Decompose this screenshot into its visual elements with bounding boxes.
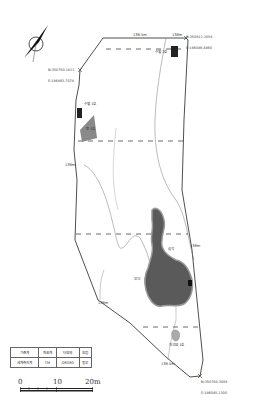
scale-tick-label: 0 xyxy=(18,378,22,386)
elevation-label: 138m xyxy=(172,33,182,37)
dolmen-label: 지석묘 1호 xyxy=(169,343,184,347)
coord-northwest: N:350750.1821 E:186463.7074 xyxy=(48,61,74,88)
elevation-label: 138m xyxy=(190,244,200,248)
coord-northeast: N:350812.2054 E:186046.4460 xyxy=(186,28,212,55)
table-cell: 동부 xyxy=(79,358,91,368)
pit-2-feature xyxy=(171,46,178,57)
site-map xyxy=(0,0,254,407)
coord-e: E:186045.1300 xyxy=(201,392,227,396)
table-cell: TM xyxy=(39,358,57,368)
coordinate-system-table: 기준계 좌표계 타원체 원점 세계측지계 TM GRS80 동부 xyxy=(10,347,92,368)
elevation-label: 138m xyxy=(98,301,108,305)
coord-e: E:186463.7074 xyxy=(48,80,74,84)
pit-1-feature xyxy=(77,108,82,118)
table-header-row: 기준계 좌표계 타원체 원점 xyxy=(11,348,92,358)
scale-bar: 0 10 20m xyxy=(18,378,96,392)
coord-e: E:186046.4460 xyxy=(186,47,212,51)
elevation-label: 138m xyxy=(65,163,75,167)
table-cell: 기준계 xyxy=(11,348,39,358)
north-arrow-icon xyxy=(24,25,48,62)
elevation-label: 138.5m xyxy=(133,33,147,37)
scale-bar-graphic xyxy=(20,387,94,392)
stone-area-upper-label: 삼석 xyxy=(168,247,174,251)
table-cell: GRS80 xyxy=(56,358,79,368)
table-cell: 타원체 xyxy=(56,348,79,358)
table-cell: 원점 xyxy=(79,348,91,358)
grey-area-label: 토 1호 xyxy=(86,127,95,131)
pit-1-label: 수혈 1호 xyxy=(84,102,96,106)
scale-tick-label: 10 xyxy=(53,378,62,386)
contour-line xyxy=(84,165,152,275)
site-boundary xyxy=(74,38,203,377)
contour-line xyxy=(100,270,104,300)
table-row: 세계측지계 TM GRS80 동부 xyxy=(11,358,92,368)
stone-area-lower-label: 부석 xyxy=(134,277,140,281)
coord-n: N:350700.3088 xyxy=(201,381,227,385)
table-cell: 세계측지계 xyxy=(11,358,39,368)
coord-southeast: N:350700.3088 E:186045.1300 xyxy=(201,373,227,400)
contour-line xyxy=(113,128,118,210)
coord-n: N:350812.2054 xyxy=(186,36,212,40)
table-cell: 좌표계 xyxy=(39,348,57,358)
stone-dark-patch xyxy=(188,280,192,286)
coord-n: N:350750.1821 xyxy=(48,69,74,73)
elevation-label: 138.5m xyxy=(161,362,175,366)
pit-2-label: 수혈 2호 xyxy=(155,50,167,54)
dolmen-feature xyxy=(172,330,180,341)
scale-tick-label: 20m xyxy=(85,378,101,386)
